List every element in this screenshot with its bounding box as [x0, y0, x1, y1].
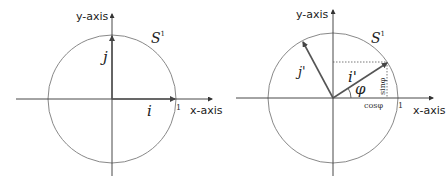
- right-diagram: y-axis x-axis S1 i' j' φ cosφ sinφ 1: [236, 8, 446, 176]
- diagram-canvas: y-axis x-axis S1 i j 1 y-axis x-axis S1 …: [0, 0, 448, 186]
- unit-tick-label: 1: [176, 103, 181, 112]
- vector-i-label: i: [147, 102, 152, 120]
- left-diagram: y-axis x-axis S1 i j 1: [16, 10, 223, 176]
- vector-j-prime-arrow: [303, 42, 333, 98]
- unit-tick-label: 1: [398, 101, 403, 110]
- angle-arc: [348, 88, 351, 98]
- angle-phi-label: φ: [355, 80, 366, 98]
- x-axis-label: x-axis: [190, 104, 223, 117]
- circle-label: S1: [371, 30, 385, 46]
- unit-circle-rotation-figure: y-axis x-axis S1 i j 1 y-axis x-axis S1 …: [0, 0, 448, 186]
- sin-phi-label: sinφ: [378, 77, 387, 95]
- circle-label: S1: [151, 30, 165, 46]
- vector-j-prime-label: j': [295, 64, 306, 79]
- x-axis-label: x-axis: [413, 104, 446, 117]
- cos-phi-label: cosφ: [364, 101, 383, 110]
- vector-j-label: j: [100, 48, 108, 66]
- y-axis-label: y-axis: [296, 8, 329, 21]
- y-axis-label: y-axis: [76, 10, 109, 23]
